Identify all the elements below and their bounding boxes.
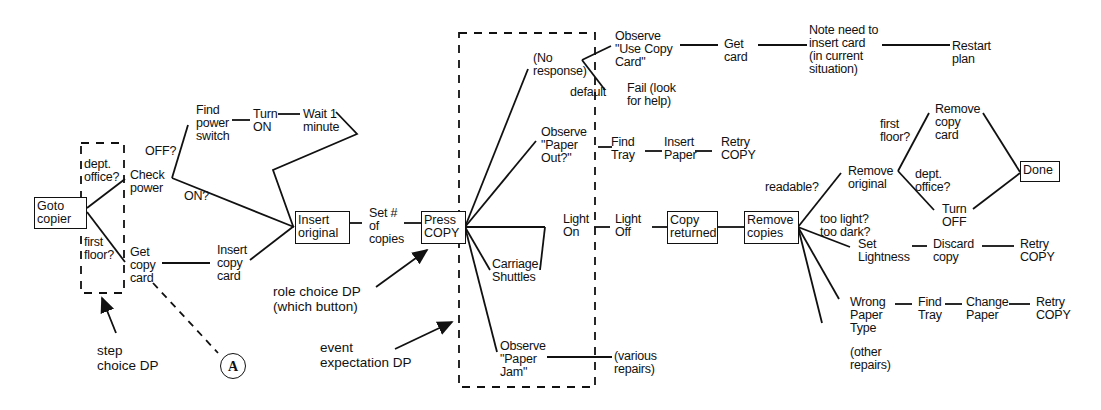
- node-various-repairs: (various repairs): [614, 350, 657, 376]
- node-retry-copy-2: Retry COPY: [1020, 238, 1055, 264]
- label-dept-office-question: dept. office?: [84, 158, 119, 184]
- step-choice-arrow: [102, 298, 116, 333]
- connector-a-icon: A: [220, 353, 246, 379]
- node-done: Done: [1020, 161, 1060, 182]
- label-off-question: OFF?: [145, 145, 176, 158]
- node-note-insert-card: Note need to insert card (in current sit…: [809, 24, 878, 76]
- annotation-step-choice-dp: step choice DP: [97, 343, 159, 373]
- node-retry-copy-3: Retry COPY: [1036, 296, 1071, 322]
- node-insert-original: Insert original: [295, 211, 350, 244]
- node-get-copy-card: Get copy card: [130, 246, 156, 285]
- node-change-paper: Change Paper: [966, 296, 1009, 322]
- node-remove-copies: Remove copies: [744, 211, 799, 244]
- role-choice-arrow: [376, 250, 427, 287]
- annotation-event-expectation-dp: event expectation DP: [320, 340, 412, 370]
- node-no-response: (No response): [533, 52, 587, 78]
- node-set-copies: Set # of copies: [369, 207, 404, 246]
- node-find-tray-1: Find Tray: [611, 136, 635, 162]
- node-find-tray-2: Find Tray: [918, 296, 942, 322]
- node-insert-copy-card: Insert copy card: [217, 244, 247, 283]
- node-find-power-switch: Find power switch: [196, 104, 230, 143]
- node-wrong-paper-type: Wrong Paper Type: [850, 296, 886, 335]
- node-get-card: Get card: [724, 38, 748, 64]
- node-other-repairs: (other repairs): [850, 346, 891, 372]
- label-too-light-too-dark: too light? too dark?: [820, 213, 870, 239]
- node-discard-copy: Discard copy: [933, 238, 974, 264]
- node-light-off: Light Off: [615, 213, 641, 239]
- label-on-question: ON?: [184, 190, 209, 203]
- node-goto-copier: Goto copier: [34, 197, 87, 229]
- node-observe-paper-out: Observe "Paper Out?": [541, 126, 587, 165]
- node-turn-off: Turn OFF: [942, 203, 966, 229]
- node-observe-use-copy-card: Observe "Use Copy Card": [615, 30, 673, 69]
- node-restart-plan: Restart plan: [952, 40, 991, 66]
- node-fail-look-for-help: Fail (look for help): [627, 82, 676, 108]
- label-default: default: [570, 86, 606, 99]
- node-insert-paper: Insert Paper: [664, 136, 696, 162]
- node-light-on: Light On: [563, 213, 589, 239]
- node-wait-1-minute: Wait 1 minute: [303, 108, 339, 134]
- node-turn-on: Turn ON: [253, 108, 277, 134]
- label-dept-office-question-2: dept. office?: [915, 168, 950, 194]
- node-set-lightness: Set Lightness: [858, 238, 910, 264]
- node-remove-copy-card: Remove copy card: [935, 103, 980, 142]
- node-check-power: Check power: [130, 169, 164, 195]
- node-copy-returned: Copy returned: [667, 211, 718, 244]
- node-observe-paper-jam: Observe "Paper Jam": [500, 340, 546, 379]
- annotation-role-choice-dp: role choice DP (which button): [273, 284, 361, 314]
- label-first-floor-question-2: first floor?: [880, 118, 910, 144]
- node-retry-copy-1: Retry COPY: [721, 136, 756, 162]
- node-carriage-shuttles: Carriage Shuttles: [492, 258, 538, 284]
- label-readable-question: readable?: [765, 181, 819, 194]
- node-press-copy: Press COPY: [421, 211, 466, 244]
- label-first-floor-question: first floor?: [84, 236, 114, 262]
- node-remove-original: Remove original: [848, 165, 893, 191]
